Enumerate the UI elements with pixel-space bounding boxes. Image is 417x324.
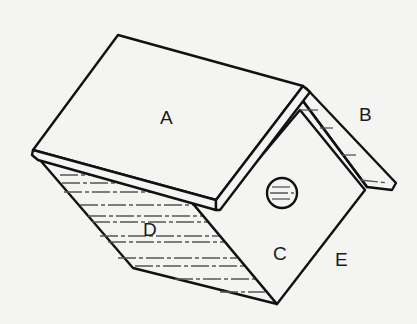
label-d: D — [143, 219, 157, 240]
label-a: A — [160, 107, 173, 128]
label-c: C — [273, 243, 287, 264]
entrance-hole — [267, 178, 297, 208]
label-b: B — [359, 104, 372, 125]
birdhouse-diagram: A B C D E — [0, 0, 417, 324]
label-e: E — [335, 249, 348, 270]
